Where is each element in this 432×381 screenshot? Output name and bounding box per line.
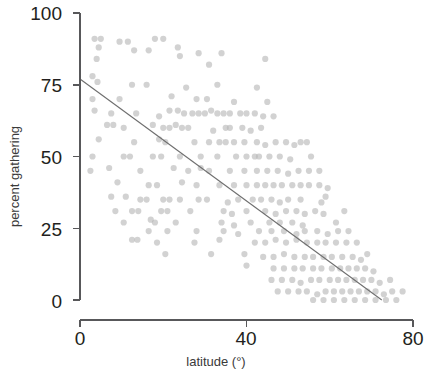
data-point: [283, 240, 289, 246]
data-point: [354, 265, 360, 271]
data-point: [350, 254, 356, 260]
data-point: [243, 182, 249, 188]
data-point: [360, 277, 366, 283]
data-point: [166, 125, 172, 131]
data-point: [112, 208, 118, 214]
x-tick-label-80: 80: [393, 329, 432, 348]
data-point: [381, 291, 387, 297]
data-point: [216, 139, 222, 145]
data-point: [368, 277, 374, 283]
data-point: [295, 288, 301, 294]
data-point: [129, 208, 135, 214]
data-point: [252, 110, 258, 116]
data-point: [339, 288, 345, 294]
data-point: [270, 265, 276, 271]
data-point: [131, 47, 137, 53]
data-point: [372, 297, 378, 303]
data-point: [333, 240, 339, 246]
data-point: [146, 182, 152, 188]
data-point: [146, 47, 152, 53]
data-point: [177, 53, 183, 59]
data-point: [285, 171, 291, 177]
data-point: [268, 228, 274, 234]
data-points-layer: [87, 36, 405, 303]
data-point: [89, 96, 95, 102]
data-point: [183, 85, 189, 91]
data-point: [283, 208, 289, 214]
data-point: [210, 128, 216, 134]
data-point: [160, 125, 166, 131]
data-point: [262, 142, 268, 148]
data-point: [106, 165, 112, 171]
data-point: [218, 219, 224, 225]
data-point: [318, 265, 324, 271]
data-point: [335, 228, 341, 234]
data-point: [339, 254, 345, 260]
data-point: [335, 277, 341, 283]
scatter-chart: 100 75 50 25 0 0 40 80 latitude (°) perc…: [0, 0, 432, 381]
data-point: [94, 56, 100, 62]
data-point: [273, 139, 279, 145]
data-point: [291, 265, 297, 271]
data-point: [260, 113, 266, 119]
data-point: [308, 277, 314, 283]
data-point: [273, 237, 279, 243]
data-point: [144, 82, 150, 88]
data-point: [116, 96, 122, 102]
data-point: [204, 196, 210, 202]
data-point: [273, 211, 279, 217]
data-point: [387, 277, 393, 283]
data-point: [254, 182, 260, 188]
data-point: [258, 196, 264, 202]
data-point: [96, 44, 102, 50]
data-point: [235, 196, 241, 202]
data-point: [221, 208, 227, 214]
data-point: [179, 179, 185, 185]
data-point: [316, 168, 322, 174]
data-point: [150, 122, 156, 128]
data-point: [312, 208, 318, 214]
y-axis-title: percent gathering: [8, 97, 21, 257]
data-point: [121, 219, 127, 225]
data-point: [231, 182, 237, 188]
data-point: [283, 139, 289, 145]
data-point: [116, 39, 122, 45]
data-point: [304, 288, 310, 294]
data-point: [214, 82, 220, 88]
data-point: [110, 122, 116, 128]
data-point: [193, 182, 199, 188]
data-point: [193, 228, 199, 234]
data-point: [237, 110, 243, 116]
data-point: [198, 153, 204, 159]
data-point: [125, 39, 131, 45]
data-point: [185, 125, 191, 131]
data-point: [175, 44, 181, 50]
data-point: [229, 211, 235, 217]
data-point: [341, 208, 347, 214]
data-point: [231, 222, 237, 228]
data-point: [383, 297, 389, 303]
data-point: [298, 139, 304, 145]
data-point: [266, 219, 272, 225]
data-point: [185, 168, 191, 174]
data-point: [320, 297, 326, 303]
data-point: [223, 139, 229, 145]
data-point: [302, 254, 308, 260]
data-point: [262, 182, 268, 188]
data-point: [362, 265, 368, 271]
data-point: [364, 251, 370, 257]
data-point: [399, 288, 405, 294]
data-point: [264, 168, 270, 174]
data-point: [227, 110, 233, 116]
data-point: [233, 153, 239, 159]
data-point: [196, 110, 202, 116]
data-point: [189, 110, 195, 116]
data-point: [193, 96, 199, 102]
data-point: [322, 288, 328, 294]
data-point: [314, 240, 320, 246]
data-point: [243, 262, 249, 268]
data-point: [218, 50, 224, 56]
data-point: [293, 208, 299, 214]
data-point: [156, 113, 162, 119]
data-point: [270, 182, 276, 188]
